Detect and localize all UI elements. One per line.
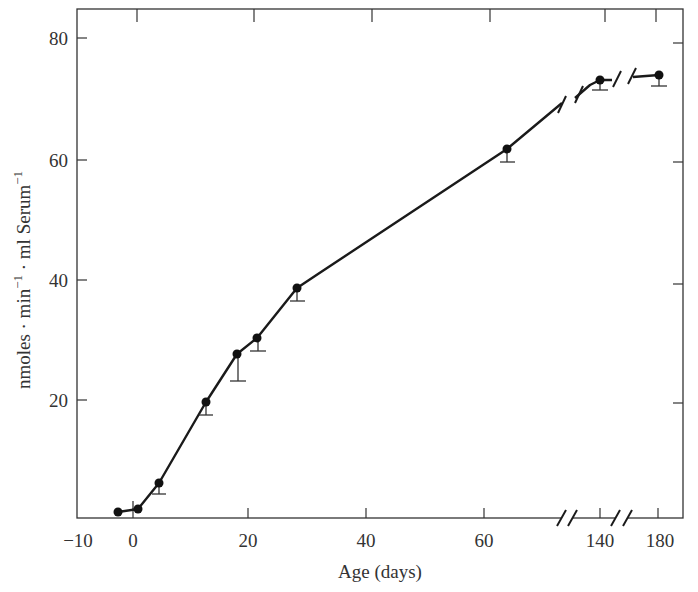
- plot-frame: [77, 9, 683, 518]
- data-point: [503, 145, 512, 154]
- data-point: [596, 76, 605, 85]
- y-axis-ticks: [77, 38, 683, 403]
- data-point: [114, 508, 123, 517]
- x-tick-60: 60: [475, 530, 494, 551]
- y-tick-20: 20: [49, 390, 68, 411]
- x-tick-180: 180: [646, 530, 675, 551]
- x-axis-ticks: [133, 9, 658, 518]
- data-point: [155, 479, 164, 488]
- data-point: [293, 284, 302, 293]
- x-tick-40: 40: [357, 530, 376, 551]
- x-tick-20: 20: [239, 530, 258, 551]
- y-tick-labels: 80 60 40 20: [49, 28, 68, 411]
- y-tick-80: 80: [49, 28, 68, 49]
- x-tick-140: 140: [586, 530, 615, 551]
- y-tick-60: 60: [49, 150, 68, 171]
- x-tick-neg10: −10: [63, 530, 93, 551]
- data-series: [114, 68, 668, 517]
- data-point: [655, 71, 664, 80]
- y-axis-label: nmoles · min−1 · ml Serum−1: [10, 171, 34, 389]
- x-tick-0: 0: [128, 530, 138, 551]
- data-point: [134, 505, 143, 514]
- data-point: [253, 334, 262, 343]
- x-tick-labels: −10 0 20 40 60 140 180: [63, 530, 674, 551]
- data-point: [202, 398, 211, 407]
- y-tick-40: 40: [49, 270, 68, 291]
- data-point: [233, 350, 242, 359]
- x-axis-label: Age (days): [338, 561, 422, 583]
- chart: 80 60 40 20 −10 0 20 40 60 140 180 Age (…: [0, 0, 698, 592]
